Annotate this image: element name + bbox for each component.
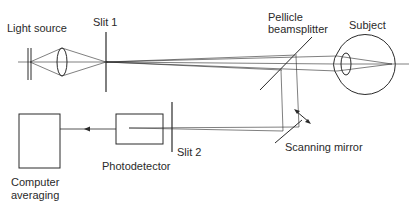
photodetector-box	[116, 114, 163, 144]
pellicle-label-line1: Pellicle	[268, 11, 303, 23]
computer-averaging-box	[19, 114, 60, 168]
return-beam	[129, 56, 299, 131]
light-source-icon	[28, 48, 31, 80]
scanning-mirror	[275, 120, 302, 143]
main-beam	[106, 55, 337, 71]
computer-label-line1: Computer	[11, 176, 59, 188]
scanning-mirror-label: Scanning mirror	[285, 141, 363, 153]
subject-label: Subject	[349, 19, 386, 31]
pellicle-label-line2: beamsplitter	[268, 23, 328, 35]
rotation-arrow-icon	[294, 109, 311, 124]
photodetector-label: Photodetector	[102, 160, 171, 172]
signal-arrow	[60, 127, 116, 132]
computer-label-line2: averaging	[11, 189, 59, 201]
slit-2-label: Slit 2	[177, 146, 201, 158]
slit-1-label: Slit 1	[93, 16, 117, 28]
light-source-label: Light source	[7, 22, 67, 34]
eye-subject-icon	[334, 35, 410, 95]
